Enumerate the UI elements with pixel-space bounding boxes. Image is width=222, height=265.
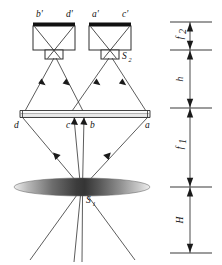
label-aperture-d: d bbox=[14, 120, 19, 130]
label-aperture-a: a bbox=[145, 120, 150, 130]
lens-array-plate bbox=[20, 111, 150, 118]
label-c-prime: c' bbox=[122, 9, 129, 19]
label-f2-group: f 2 bbox=[175, 29, 188, 40]
label-S2: S bbox=[122, 51, 127, 61]
label-aperture-c: c bbox=[66, 120, 71, 130]
right-detector-aperture-bar bbox=[89, 23, 131, 27]
label-d-prime: d' bbox=[66, 9, 74, 19]
left-detector-body bbox=[33, 26, 75, 50]
label-a-prime: a' bbox=[92, 9, 100, 19]
ray-a-to-right-detector bbox=[112, 58, 146, 111]
diverging-ray-center-left bbox=[74, 188, 81, 262]
label-f1-group: f 1 bbox=[175, 139, 188, 149]
optics-figure: b' d' a' c' S 2 d c b a S 1 f 2 h f 1 bbox=[0, 0, 222, 265]
arrowhead-a-side bbox=[103, 153, 111, 160]
label-f2-subscript: 2 bbox=[178, 29, 188, 34]
ray-S1-to-d bbox=[23, 118, 81, 187]
label-S2-subscript: 2 bbox=[129, 56, 132, 63]
upper-ray-arrowheads bbox=[38, 78, 126, 85]
arrow-H-down bbox=[187, 244, 193, 253]
arrow-f1-up bbox=[187, 109, 193, 118]
ray-b-to-left-detector bbox=[56, 58, 83, 111]
ray-c-to-right-detector bbox=[72, 58, 109, 111]
label-H-group: H bbox=[175, 215, 185, 224]
label-f1: f bbox=[175, 145, 185, 149]
label-S1: S bbox=[86, 195, 91, 205]
arrow-h-down bbox=[187, 99, 193, 108]
center-beam bbox=[71, 118, 88, 188]
below-disk-rays bbox=[30, 188, 135, 262]
label-S2-group: S 2 bbox=[122, 51, 132, 63]
upper-ray-bundle bbox=[25, 58, 146, 111]
label-H: H bbox=[175, 215, 185, 224]
arrowhead-d-side bbox=[53, 153, 61, 160]
beam-c-lower bbox=[74, 118, 81, 187]
object-disk bbox=[14, 178, 150, 196]
label-h: h bbox=[175, 76, 185, 81]
right-detector-body bbox=[89, 26, 131, 50]
arrow-H-up bbox=[187, 188, 193, 197]
ray-d-to-left-detector bbox=[25, 58, 54, 111]
diverging-ray-left bbox=[30, 188, 82, 260]
lower-ray-bundle bbox=[23, 118, 147, 187]
arrow-f2-down bbox=[187, 41, 193, 50]
label-b-prime: b' bbox=[36, 9, 44, 19]
arrow-h-up bbox=[187, 51, 193, 60]
label-aperture-b: b bbox=[90, 120, 95, 130]
arrow-f2-up bbox=[187, 23, 193, 32]
lower-ray-arrowheads bbox=[53, 153, 111, 160]
arrowhead-2 bbox=[63, 78, 70, 85]
label-f1-subscript: 1 bbox=[178, 139, 188, 144]
left-detector-aperture-bar bbox=[33, 23, 75, 27]
arrowhead-4 bbox=[119, 78, 126, 85]
diverging-ray-center-right bbox=[82, 188, 83, 262]
arrowhead-c bbox=[71, 118, 78, 126]
label-S1-group: S 1 bbox=[86, 195, 96, 207]
arrowhead-b bbox=[80, 118, 87, 126]
center-beam-arrowheads bbox=[71, 118, 88, 126]
beam-b-lower bbox=[83, 118, 85, 187]
label-f2: f bbox=[175, 35, 185, 39]
arrow-f1-down bbox=[187, 178, 193, 187]
left-detector bbox=[33, 23, 75, 60]
figure-canvas: b' d' a' c' S 2 d c b a S 1 f 2 h f 1 bbox=[0, 0, 222, 265]
object-disk-ellipse bbox=[14, 178, 150, 196]
plate-body bbox=[20, 111, 150, 118]
label-S1-subscript: 1 bbox=[93, 200, 96, 207]
label-h-group: h bbox=[175, 76, 185, 81]
